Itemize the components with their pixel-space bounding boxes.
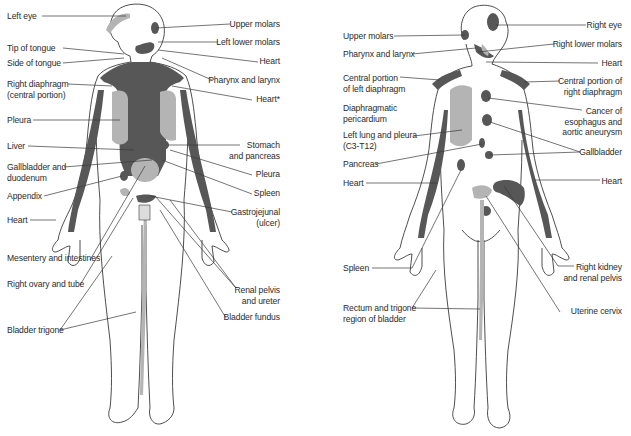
label-spleen-anterior: Spleen bbox=[254, 188, 280, 199]
label-mesentery-intestines: Mesentery and intestines bbox=[7, 253, 100, 264]
label-tip-of-tongue: Tip of tongue bbox=[7, 43, 56, 54]
body-figures bbox=[0, 0, 631, 436]
label-heart-posterior-right: Heart bbox=[601, 176, 622, 187]
label-left-lower-molars: Left lower molars bbox=[216, 37, 280, 48]
label-left-diaphragm-central: Central portion of left diaphragm bbox=[343, 73, 405, 94]
label-upper-molars-anterior: Upper molars bbox=[230, 19, 280, 30]
label-diaphragmatic-pericardium: Diaphragmatic pericardium bbox=[343, 103, 397, 124]
label-appendix: Appendix bbox=[7, 191, 42, 202]
label-uterine-cervix: Uterine cervix bbox=[571, 306, 622, 317]
label-esophagus-aortic-aneurysm: Cancer of esophagus and aortic aneurysm bbox=[562, 106, 622, 138]
label-liver: Liver bbox=[7, 141, 25, 152]
leader-lines bbox=[28, 16, 600, 330]
label-right-kidney-renal-pelvis: Right kidney and renal pelvis bbox=[563, 262, 622, 283]
label-pleura-right: Pleura bbox=[256, 169, 280, 180]
label-left-lung-pleura: Left lung and pleura (C3-T12) bbox=[343, 130, 417, 151]
label-heart-posterior-left: Heart bbox=[343, 178, 364, 189]
label-upper-molars-posterior: Upper molars bbox=[343, 31, 393, 42]
label-gallbladder-posterior: Gallbladder bbox=[579, 147, 622, 158]
label-right-diaphragm: Right diaphragm (central portion) bbox=[7, 79, 69, 100]
posterior-light-areas bbox=[450, 44, 492, 340]
label-spleen-posterior: Spleen bbox=[343, 263, 369, 274]
label-heart-posterior-neck: Heart bbox=[601, 58, 622, 69]
anterior-dark-areas bbox=[68, 22, 216, 232]
label-heart-chest: Heart* bbox=[256, 94, 280, 105]
label-pharynx-larynx-anterior: Pharynx and larynx bbox=[208, 75, 280, 86]
label-pleura-anterior: Pleura bbox=[7, 115, 31, 126]
label-pancreas: Pancreas bbox=[343, 159, 379, 170]
label-right-ovary-tube: Right ovary and tube bbox=[7, 279, 84, 290]
label-stomach-pancreas: Stomach and pancreas bbox=[229, 140, 280, 161]
label-rectum-trigone: Rectum and trigone region of bladder bbox=[343, 303, 416, 324]
label-left-eye: Left eye bbox=[7, 11, 37, 22]
label-bladder-trigone: Bladder trigone bbox=[7, 325, 64, 336]
label-pharynx-larynx-posterior: Pharynx and larynx bbox=[343, 49, 415, 60]
label-right-lower-molars: Right lower molars bbox=[553, 39, 622, 50]
label-gallbladder-duodenum: Gallbladder and duodenum bbox=[7, 162, 66, 183]
label-side-of-tongue: Side of tongue bbox=[7, 58, 61, 69]
label-heart-neck: Heart bbox=[259, 56, 280, 67]
label-gastrojejunal-ulcer: Gastrojejunal (ulcer) bbox=[231, 207, 280, 228]
referred-pain-diagram: Left eye Tip of tongue Side of tongue Ri… bbox=[0, 0, 631, 436]
label-renal-pelvis-ureter: Renal pelvis and ureter bbox=[234, 285, 280, 306]
label-right-diaphragm-central: Central portion of right diaphragm bbox=[558, 76, 622, 97]
label-right-eye: Right eye bbox=[587, 20, 622, 31]
label-heart-anterior-arm: Heart bbox=[7, 215, 28, 226]
label-bladder-fundus: Bladder fundus bbox=[224, 312, 280, 323]
